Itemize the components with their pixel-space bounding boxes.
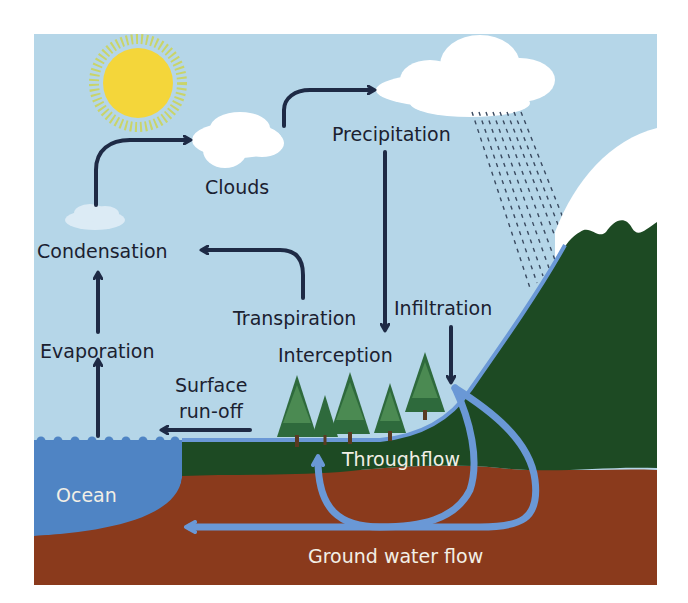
label-ground-water-flow: Ground water flow (308, 545, 483, 567)
label-surface-runoff-2: run-off (179, 400, 244, 422)
water-cycle-diagram: Clouds Precipitation Condensation Transp… (0, 0, 688, 603)
label-infiltration: Infiltration (394, 297, 492, 319)
label-surface-runoff-1: Surface (175, 374, 247, 396)
label-precipitation: Precipitation (332, 123, 451, 145)
label-evaporation: Evaporation (40, 340, 154, 362)
label-throughflow: Throughflow (341, 448, 460, 470)
label-transpiration: Transpiration (232, 307, 356, 329)
label-clouds: Clouds (205, 176, 269, 198)
label-interception: Interception (278, 344, 393, 366)
label-ocean: Ocean (56, 484, 117, 506)
label-condensation: Condensation (37, 240, 168, 262)
